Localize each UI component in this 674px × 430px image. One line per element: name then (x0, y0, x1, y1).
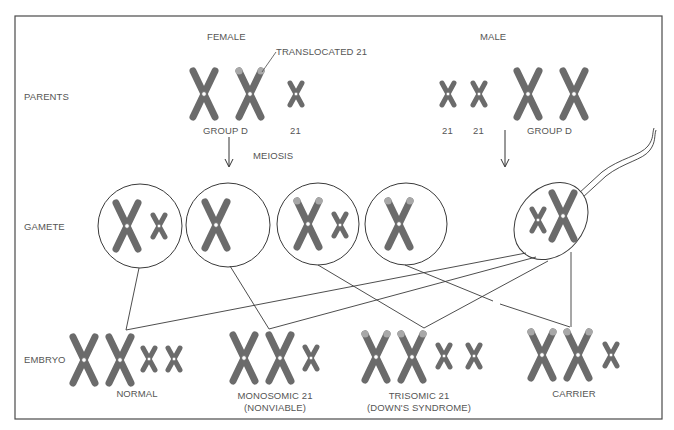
embryo-normal (73, 337, 180, 383)
male-parent-chromosomes (442, 71, 585, 117)
embryo-label-trisomic: TRISOMIC 21 (389, 390, 450, 401)
embryo-label-trisomic-note: (DOWN'S SYNDROME) (367, 402, 471, 413)
embryo-label-monosomic-note: (NONVIABLE) (244, 402, 306, 413)
translocation-callout: TRANSLOCATED 21 (276, 46, 367, 57)
female-label: FEMALE (207, 31, 246, 42)
row-label-gamete: GAMETE (24, 221, 65, 232)
female-meiosis-arrow (225, 137, 233, 167)
row-label-embryo: EMBRYO (24, 354, 66, 365)
embryo-carrier (527, 328, 617, 378)
male-label: MALE (480, 31, 506, 42)
male-chr21-label-1: 21 (442, 125, 453, 136)
female-chr21-label: 21 (290, 125, 301, 136)
male-meiosis-arrow (501, 130, 509, 167)
female-group-d-label: GROUP D (203, 125, 248, 136)
meiosis-label: MEIOSIS (253, 150, 293, 161)
gamete-4 (365, 183, 447, 265)
gamete-1 (98, 184, 182, 268)
embryo-trisomic (361, 330, 480, 380)
male-group-d-label: GROUP D (527, 125, 572, 136)
gamete-2 (186, 183, 270, 267)
translocation-callout-line (262, 52, 276, 72)
male-chr21-label-2: 21 (473, 125, 484, 136)
sperm-gamete (499, 128, 656, 274)
row-label-parents: PARENTS (24, 91, 69, 102)
fertilization-lines (126, 252, 571, 330)
embryo-label-monosomic: MONOSOMIC 21 (237, 390, 312, 401)
gamete-3 (277, 183, 359, 265)
female-parent-chromosomes (193, 67, 302, 117)
embryo-monosomic (233, 335, 317, 381)
translocation-diagram (0, 0, 674, 430)
embryo-label-normal: NORMAL (116, 388, 157, 399)
embryo-label-carrier: CARRIER (552, 388, 595, 399)
